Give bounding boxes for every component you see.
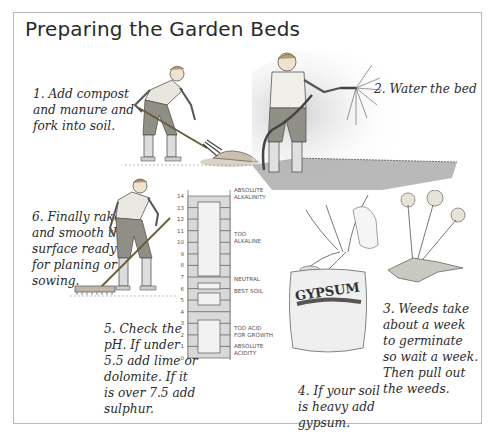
page-title: Preparing the Garden Beds xyxy=(25,17,300,41)
ph-label-too-alkaline: Too Alkaline xyxy=(234,231,261,245)
ph-label-too-acid: Too Acid for Growth xyxy=(234,325,273,339)
step-5-text: 5. Check the pH. If under 5.5 add lime o… xyxy=(104,321,198,417)
gypsum-bag-illustration: GYPSUM xyxy=(283,266,373,356)
step-3-text: 3. Weeds take about a week to germinate … xyxy=(383,301,478,397)
person-raking-illustration xyxy=(70,178,180,300)
step-2-text: 2. Water the bed xyxy=(374,81,477,97)
ph-tick-4: 4 xyxy=(174,309,184,315)
person-forking-compost-illustration xyxy=(125,60,260,170)
ph-label-absolute-acidity: Absolute Acidity xyxy=(234,343,263,357)
ph-label-neutral: Neutral xyxy=(234,276,260,283)
ph-label-best-soil: Best Soil xyxy=(234,288,263,295)
ph-label-absolute-alkalinity: Absolute Alkalinity xyxy=(234,187,266,201)
step-4-text: 4. If your soil is heavy add gypsum. xyxy=(298,383,380,431)
step-1-text: 1. Add compost and manure and fork into … xyxy=(33,86,134,134)
person-watering-hose-illustration xyxy=(252,50,482,190)
